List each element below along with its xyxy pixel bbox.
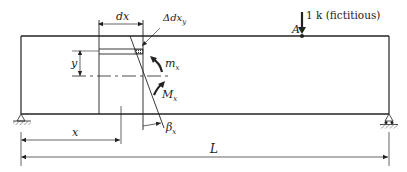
point-A-label: A bbox=[291, 23, 300, 36]
svg-text:mx: mx bbox=[165, 57, 179, 72]
dx-dimension: dx bbox=[99, 10, 143, 24]
m-x-label: m bbox=[165, 57, 175, 70]
y-dimension: y bbox=[70, 51, 99, 76]
svg-text:Δdxy: Δdxy bbox=[162, 12, 187, 26]
fictitious-load: A 1 k (fictitious) bbox=[291, 9, 380, 38]
M-x-moment: Mx bbox=[154, 81, 177, 103]
beam bbox=[21, 36, 389, 114]
beta-x-annotation: βx bbox=[143, 121, 176, 136]
M-x-label: M bbox=[161, 88, 174, 101]
pin-support-icon bbox=[13, 114, 31, 125]
y-label: y bbox=[70, 57, 78, 70]
point-A-dot bbox=[300, 34, 304, 38]
beta-x-label: β bbox=[165, 121, 172, 134]
delta-dx-annotation: Δdxy bbox=[142, 12, 187, 46]
L-label: L bbox=[209, 142, 218, 156]
dx-label: dx bbox=[116, 10, 130, 23]
m-x-moment: mx bbox=[150, 56, 179, 72]
load-label: 1 k (fictitious) bbox=[306, 9, 380, 21]
x-label: x bbox=[72, 126, 79, 139]
svg-text:Mx: Mx bbox=[161, 88, 177, 103]
svg-text:βx: βx bbox=[165, 121, 176, 136]
delta-dx-label: Δdx bbox=[162, 12, 183, 23]
beam-diagram: dx Δdxy y mx Mx βx bbox=[0, 0, 407, 172]
roller-support-icon bbox=[380, 114, 398, 129]
